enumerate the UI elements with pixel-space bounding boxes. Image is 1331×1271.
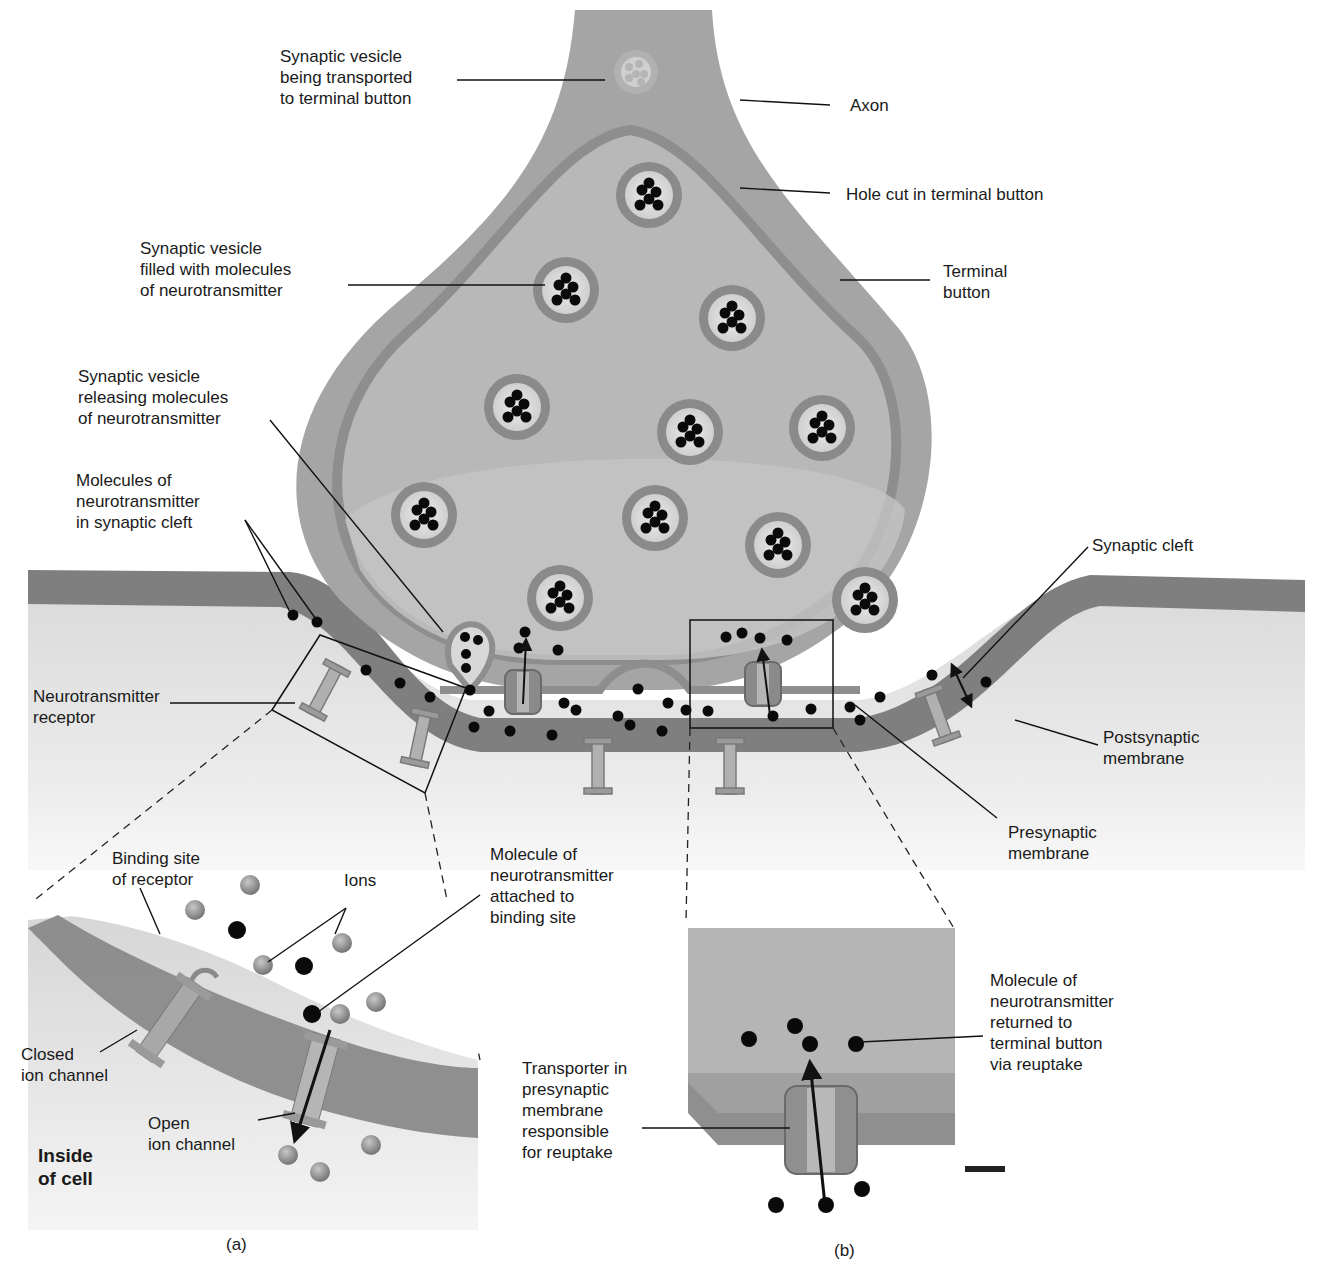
neurotransmitter-molecule <box>465 685 476 696</box>
label-ions: Ions <box>344 870 376 891</box>
label-vesicle-filled: Synaptic vesicle filled with molecules o… <box>140 238 291 301</box>
neurotransmitter-molecule <box>469 722 480 733</box>
neurotransmitter-molecule <box>633 684 644 695</box>
neurotransmitter-molecule <box>395 678 406 689</box>
neurotransmitter-molecule <box>755 633 766 644</box>
neurotransmitter-molecule <box>782 635 793 646</box>
neurotransmitter-molecule <box>312 617 323 628</box>
label-vesicle-releasing: Synaptic vesicle releasing molecules of … <box>78 366 228 429</box>
neurotransmitter-molecule <box>875 692 886 703</box>
synaptic-vesicle <box>484 374 550 440</box>
neurotransmitter-molecule <box>571 705 582 716</box>
label-open-channel: Open ion channel <box>148 1113 235 1155</box>
panel-a-caption: (a) <box>226 1234 247 1255</box>
synaptic-vesicle <box>832 567 898 633</box>
synaptic-vesicle <box>699 285 765 351</box>
synapse-diagram <box>0 0 1331 1271</box>
neurotransmitter-molecule <box>484 706 495 717</box>
neurotransmitter-molecule <box>625 720 636 731</box>
label-inside-cell: Inside of cell <box>38 1144 93 1190</box>
label-vesicle-transported: Synaptic vesicle being transported to te… <box>280 46 412 109</box>
neurotransmitter-molecule <box>721 632 732 643</box>
label-axon: Axon <box>850 95 889 116</box>
panel-b-caption: (b) <box>834 1240 855 1261</box>
synaptic-vesicle <box>527 565 593 631</box>
neurotransmitter-molecule <box>520 627 531 638</box>
vesicle-transported <box>614 50 658 94</box>
neurotransmitter-molecule <box>657 726 668 737</box>
synaptic-vesicle <box>616 162 682 228</box>
neurotransmitter-molecule <box>425 692 436 703</box>
label-transporter: Transporter in presynaptic membrane resp… <box>522 1058 627 1163</box>
label-terminal-button: Terminal button <box>943 261 1007 303</box>
neurotransmitter-molecule <box>703 706 714 717</box>
neurotransmitter-molecule <box>613 711 624 722</box>
neurotransmitter-molecule <box>806 704 817 715</box>
neurotransmitter-molecule <box>361 665 372 676</box>
synaptic-vesicle <box>657 399 723 465</box>
neurotransmitter-molecule <box>981 677 992 688</box>
synaptic-vesicle <box>745 512 811 578</box>
label-molecule-attached: Molecule of neurotransmitter attached to… <box>490 844 614 928</box>
neurotransmitter-molecule <box>547 730 558 741</box>
neurotransmitter-molecule <box>737 628 748 639</box>
label-postsynaptic-membrane: Postsynaptic membrane <box>1103 727 1199 769</box>
label-molecules-in-cleft: Molecules of neurotransmitter in synapti… <box>76 470 200 533</box>
label-binding-site: Binding site of receptor <box>112 848 200 890</box>
label-nt-receptor: Neurotransmitter receptor <box>33 686 160 728</box>
neurotransmitter-molecule <box>505 726 516 737</box>
synaptic-vesicle <box>622 485 688 551</box>
neurotransmitter-molecule <box>927 670 938 681</box>
synaptic-vesicle <box>391 482 457 548</box>
synaptic-vesicle <box>789 395 855 461</box>
neurotransmitter-molecule <box>553 645 564 656</box>
label-synaptic-cleft: Synaptic cleft <box>1092 535 1193 556</box>
neurotransmitter-molecule <box>514 643 525 654</box>
label-presynaptic-membrane: Presynaptic membrane <box>1008 822 1097 864</box>
neurotransmitter-molecule <box>855 715 866 726</box>
scan-artifact <box>965 1166 1005 1172</box>
panel-b-inset <box>688 928 955 1213</box>
synaptic-vesicle <box>533 257 599 323</box>
label-closed-channel: Closed ion channel <box>21 1044 108 1086</box>
neurotransmitter-molecule <box>559 698 570 709</box>
label-hole-cut: Hole cut in terminal button <box>846 184 1044 205</box>
neurotransmitter-molecule <box>845 702 856 713</box>
neurotransmitter-molecule <box>663 698 674 709</box>
label-molecule-returned: Molecule of neurotransmitter returned to… <box>990 970 1114 1075</box>
